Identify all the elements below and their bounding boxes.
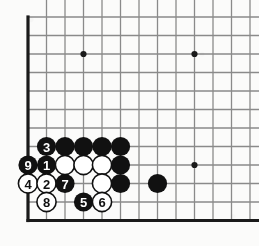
stone-white[interactable] — [74, 155, 93, 174]
black-stone-disc — [148, 174, 167, 193]
stone-black[interactable] — [111, 174, 130, 193]
move-number-label: 1 — [43, 158, 50, 173]
black-stone-disc — [55, 137, 74, 156]
move-number-label: 6 — [98, 195, 105, 210]
stone-black[interactable] — [111, 155, 130, 174]
stone-black-move-1[interactable]: 1 — [37, 155, 56, 174]
black-stone-disc — [74, 137, 93, 156]
star-point — [80, 51, 86, 57]
star-point — [191, 51, 197, 57]
white-stone-disc — [92, 155, 111, 174]
go-board-diagram: 391427856 — [0, 0, 259, 246]
stone-black[interactable] — [111, 137, 130, 156]
stone-black[interactable] — [55, 137, 74, 156]
black-stone-disc — [111, 155, 130, 174]
black-stone-disc — [111, 137, 130, 156]
stone-black[interactable] — [92, 137, 111, 156]
move-number-label: 3 — [43, 140, 50, 155]
white-stone-disc — [55, 155, 74, 174]
white-stone-disc — [74, 155, 93, 174]
black-stone-disc — [111, 174, 130, 193]
move-number-label: 2 — [43, 177, 50, 192]
stone-black-move-5[interactable]: 5 — [74, 192, 93, 211]
stone-black-move-7[interactable]: 7 — [55, 174, 74, 193]
move-number-label: 7 — [61, 177, 68, 192]
stone-white[interactable] — [92, 155, 111, 174]
move-number-label: 9 — [24, 158, 31, 173]
move-number-label: 8 — [43, 195, 50, 210]
stone-white[interactable] — [55, 155, 74, 174]
white-stone-disc — [92, 174, 111, 193]
stone-white-move-4[interactable]: 4 — [18, 174, 37, 193]
move-number-label: 5 — [80, 195, 87, 210]
black-stone-disc — [92, 137, 111, 156]
stone-white-move-6[interactable]: 6 — [92, 192, 111, 211]
star-point — [191, 162, 197, 168]
board-background — [0, 0, 259, 246]
stone-black[interactable] — [148, 174, 167, 193]
move-number-label: 4 — [24, 177, 32, 192]
stone-white[interactable] — [92, 174, 111, 193]
stone-black-move-3[interactable]: 3 — [37, 137, 56, 156]
stone-white-move-8[interactable]: 8 — [37, 192, 56, 211]
goban-svg[interactable]: 391427856 — [0, 0, 259, 246]
stone-black-move-9[interactable]: 9 — [18, 155, 37, 174]
stone-white-move-2[interactable]: 2 — [37, 174, 56, 193]
stone-black[interactable] — [74, 137, 93, 156]
